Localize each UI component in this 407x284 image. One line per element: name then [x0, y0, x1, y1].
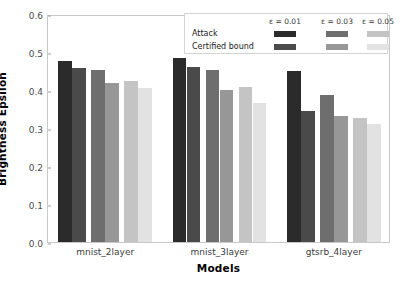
bar — [173, 58, 187, 242]
y-axis-tick-label: 0.5 — [29, 49, 48, 59]
y-axis-tick-mark — [48, 244, 51, 245]
bar — [206, 70, 220, 242]
bar — [253, 103, 267, 242]
legend-color-swatch — [367, 44, 389, 50]
y-axis-label: Brightness Epsilon — [0, 72, 8, 186]
legend-color-swatch — [326, 44, 348, 50]
legend-row-label: Certified bound — [192, 42, 254, 51]
y-axis-tick-mark — [48, 54, 51, 55]
bar — [72, 68, 86, 242]
x-axis-tick-label: gtsrb_4layer — [306, 247, 362, 257]
y-axis-tick-label: 0.0 — [29, 239, 48, 249]
bar — [124, 81, 138, 242]
y-axis-tick-mark — [48, 130, 51, 131]
bar — [301, 111, 315, 242]
legend-color-swatch — [274, 44, 296, 50]
bar — [287, 71, 301, 242]
legend-row-label: Attack — [192, 29, 218, 38]
y-axis-tick-label: 0.4 — [29, 87, 48, 97]
legend-column-header: ε = 0.05 — [362, 17, 394, 26]
legend-color-swatch — [274, 31, 296, 37]
legend-column-header: ε = 0.03 — [321, 17, 353, 26]
bar — [320, 95, 334, 242]
bar-chart-figure: Brightness Epsilon 0.00.10.20.30.40.50.6… — [0, 0, 407, 284]
bar — [367, 124, 381, 242]
bar — [187, 67, 201, 242]
x-axis-tick-label: mnist_2layer — [76, 247, 134, 257]
bar — [239, 87, 253, 242]
y-axis-tick-mark — [48, 16, 51, 17]
bar — [353, 118, 367, 242]
legend-color-swatch — [367, 31, 389, 37]
y-axis-tick-label: 0.6 — [29, 11, 48, 21]
bar — [58, 61, 72, 242]
x-axis-label: Models — [47, 262, 390, 274]
legend-column-header: ε = 0.01 — [269, 17, 301, 26]
bar — [334, 116, 348, 242]
bar — [91, 70, 105, 242]
bar — [220, 90, 234, 242]
bar — [138, 88, 152, 242]
y-axis-tick-mark — [48, 206, 51, 207]
legend-color-swatch — [326, 31, 348, 37]
y-axis-tick-label: 0.2 — [29, 163, 48, 173]
bar — [105, 83, 119, 242]
x-axis-tick-label: mnist_3layer — [191, 247, 249, 257]
y-axis-tick-label: 0.3 — [29, 125, 48, 135]
y-axis-tick-mark — [48, 92, 51, 93]
y-axis-tick-label: 0.1 — [29, 201, 48, 211]
chart-legend: ε = 0.01ε = 0.03ε = 0.05AttackCertified … — [184, 13, 388, 54]
y-axis-tick-mark — [48, 168, 51, 169]
